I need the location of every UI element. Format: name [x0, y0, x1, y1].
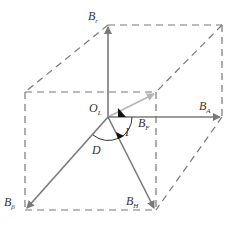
label-b-a: BA [199, 100, 211, 115]
label-origin: OL [89, 102, 102, 117]
label-b-beta: Bβ [4, 196, 15, 211]
label-b-h: BH [126, 195, 138, 210]
label-b-f: BF [138, 117, 150, 132]
label-angle-d: D [92, 144, 101, 156]
label-angle-i: I [125, 126, 129, 138]
vector-b-beta [27, 117, 108, 208]
vector-b-f [108, 94, 154, 117]
vector-arrows [27, 27, 220, 208]
label-b-r: Br [88, 10, 98, 25]
